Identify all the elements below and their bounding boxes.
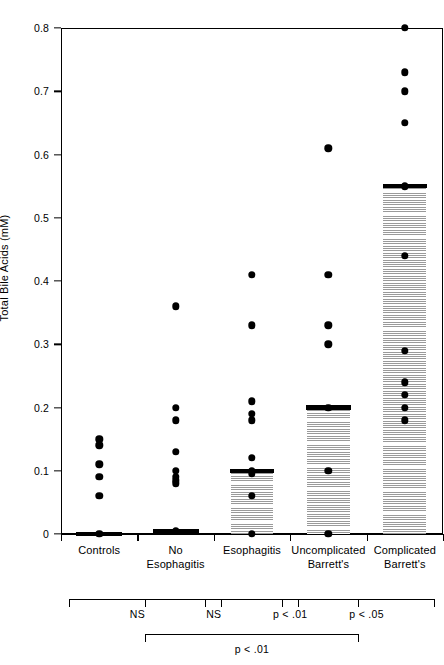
x-tick-mark — [367, 534, 368, 541]
data-point — [248, 416, 255, 423]
significance-label: p < .01 — [145, 643, 359, 655]
x-tick-label-line: Barrett's — [355, 557, 444, 571]
data-point — [95, 442, 102, 449]
data-point — [401, 119, 408, 126]
data-point — [95, 530, 102, 537]
data-point — [325, 271, 332, 278]
data-point — [172, 480, 179, 487]
data-point — [95, 473, 102, 480]
significance-label: p < .05 — [298, 608, 436, 620]
data-point — [248, 530, 255, 537]
data-point — [248, 454, 255, 461]
x-tick-mark — [290, 534, 291, 541]
bile-acids-scatter-chart: Total Bile Acids (mM) 00.10.20.30.40.50.… — [0, 0, 444, 665]
group-bar — [383, 186, 426, 534]
significance-bracket — [145, 634, 359, 642]
data-point — [325, 322, 332, 329]
data-point — [325, 341, 332, 348]
data-point — [95, 492, 102, 499]
x-tick-mark — [61, 534, 62, 541]
data-point — [401, 69, 408, 76]
data-point — [172, 448, 179, 455]
x-tick-label-line: Esophagitis — [125, 557, 225, 571]
data-point — [325, 530, 332, 537]
data-point — [248, 271, 255, 278]
data-point — [325, 144, 332, 151]
significance-bracket — [298, 599, 436, 607]
data-point — [172, 416, 179, 423]
x-tick-mark — [214, 534, 215, 541]
group-bar — [231, 471, 274, 534]
data-point — [95, 461, 102, 468]
data-point — [248, 322, 255, 329]
data-point — [248, 397, 255, 404]
data-point — [172, 404, 179, 411]
data-point — [172, 527, 179, 534]
x-tick-label-line: Complicated — [355, 543, 444, 557]
x-tick-label: ComplicatedBarrett's — [355, 543, 444, 571]
x-tick-mark — [137, 534, 138, 541]
data-point — [401, 88, 408, 95]
data-point — [401, 24, 408, 31]
data-point — [172, 303, 179, 310]
